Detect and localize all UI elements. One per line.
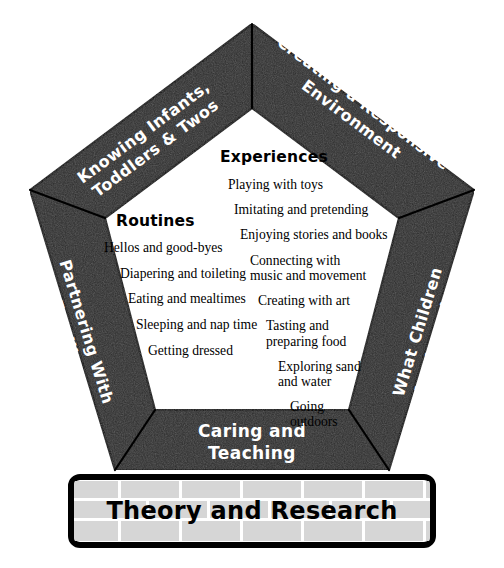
experiences-item-3: Connecting with music and movement [250,253,401,283]
experiences-item-1: Imitating and pretending [234,202,401,217]
experiences-item-4: Creating with art [258,293,401,308]
foundation-brick-base: Theory and Research [66,472,438,550]
experiences-item-5: Tasting and preparing food [266,318,401,348]
experiences-item-2: Enjoying stories and books [240,227,401,242]
experiences-column: Experiences Playing with toys Imitating … [216,148,401,440]
experiences-item-7: Going outdoors [290,399,401,429]
experiences-item-6: Exploring sand and water [278,359,401,389]
diagram-canvas: Knowing Infants, Toddlers & Twos Creatin… [0,0,504,568]
experiences-heading: Experiences [220,148,401,166]
experiences-item-0: Playing with toys [228,177,401,192]
foundation-label: Theory and Research [106,497,397,525]
